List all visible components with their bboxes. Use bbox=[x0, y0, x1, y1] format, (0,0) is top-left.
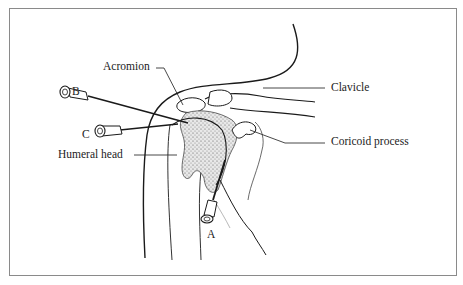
deltoid-line bbox=[168, 125, 172, 260]
label-needle-b: B bbox=[72, 86, 80, 98]
acromion-shape bbox=[177, 98, 205, 113]
label-coracoid-process: Coricoid process bbox=[331, 136, 409, 148]
label-needle-c: C bbox=[82, 129, 90, 141]
needle-c bbox=[95, 124, 178, 137]
scapula-border bbox=[220, 180, 266, 255]
label-acromion: Acromion bbox=[103, 61, 150, 73]
label-needle-a: A bbox=[207, 229, 215, 241]
arm-line bbox=[199, 170, 201, 260]
leader-acromion bbox=[156, 68, 183, 105]
label-humeral-head: Humeral head bbox=[58, 149, 123, 161]
label-clavicle: Clavicle bbox=[331, 82, 369, 94]
joint-capsule bbox=[180, 111, 237, 193]
